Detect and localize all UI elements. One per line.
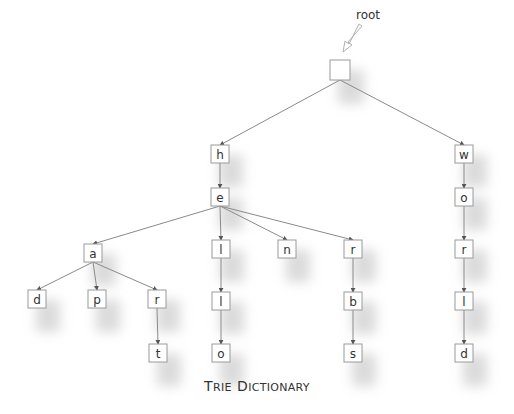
node-label: d [33,293,41,307]
node-label: t [156,347,161,361]
trie-node-e: e [211,188,229,206]
node-label: e [216,191,223,205]
node-label: n [283,243,291,257]
trie-diagram: healnrdprtlobsworld root [0,0,514,414]
edge-root-h [220,80,340,145]
node-label: b [349,295,357,309]
root-label: root [356,8,380,22]
diagram-title: TRIE DICTIONARY [0,376,514,395]
node-label: r [351,243,356,257]
trie-node-l1: l [212,240,230,258]
node-label: l [219,295,222,309]
trie-node-n: n [278,240,296,258]
edge-e-a [93,206,220,244]
trie-node-w: w [455,145,473,163]
node-label: l [219,243,222,257]
trie-nodes: healnrdprtlobsworld [28,60,473,362]
title-rest-rie: RIE [213,381,232,394]
trie-node-h: h [211,145,229,163]
edge-root-w [340,80,464,145]
trie-node-r2: r [148,290,166,308]
node-box [330,60,350,80]
root-pointer: root [343,8,380,52]
node-label: p [93,293,101,307]
trie-node-a: a [84,244,102,262]
trie-node-o2: o [455,188,473,206]
node-label: o [460,191,467,205]
trie-node-t: t [149,344,167,362]
edge-a-d1 [37,262,93,290]
trie-node-b: b [344,292,362,310]
title-initial-d: D [237,378,248,394]
node-label: a [89,247,96,261]
root-arrow-icon [343,24,362,52]
trie-node-l3: l [455,292,473,310]
node-label: l [462,295,465,309]
trie-node-d1: d [28,290,46,308]
trie-node-d2: d [455,344,473,362]
trie-node-p: p [88,290,106,308]
node-label: w [459,148,469,162]
trie-node-root [330,60,350,80]
trie-node-l2: l [212,292,230,310]
node-shadows [36,70,487,386]
trie-node-r3: r [455,240,473,258]
trie-node-r1: r [344,240,362,258]
title-rest-ictionary: ICTIONARY [248,381,310,394]
title-initial-t: T [204,378,213,394]
node-label: d [460,347,468,361]
node-label: s [350,347,356,361]
node-label: r [462,243,467,257]
node-label: h [216,148,224,162]
trie-node-o1: o [212,344,230,362]
node-label: r [155,293,160,307]
node-label: o [217,347,224,361]
trie-node-s: s [344,344,362,362]
